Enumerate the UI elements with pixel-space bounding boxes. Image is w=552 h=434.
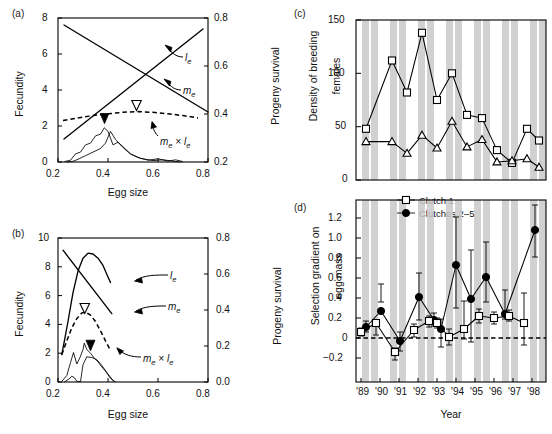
- panel-c: (c) Density of breeding females 150 100 …: [280, 0, 552, 195]
- figure-container: (a) Fecundity Progeny survival Egg size …: [0, 0, 552, 434]
- panel-d-shaded-bands: [362, 200, 546, 382]
- panel-b: (b) Fecundity Progeny survival Egg size …: [0, 212, 280, 434]
- panel-b-plot: [0, 212, 280, 434]
- panel-c-plot: [280, 0, 552, 195]
- panel-d-plot: [280, 190, 552, 434]
- panel-d: (d) Selection gradient on egg mass Year …: [280, 190, 552, 434]
- panel-c-shaded-bands: [362, 20, 546, 180]
- panel-a: (a) Fecundity Progeny survival Egg size …: [0, 0, 280, 212]
- panel-a-plot: [0, 0, 280, 212]
